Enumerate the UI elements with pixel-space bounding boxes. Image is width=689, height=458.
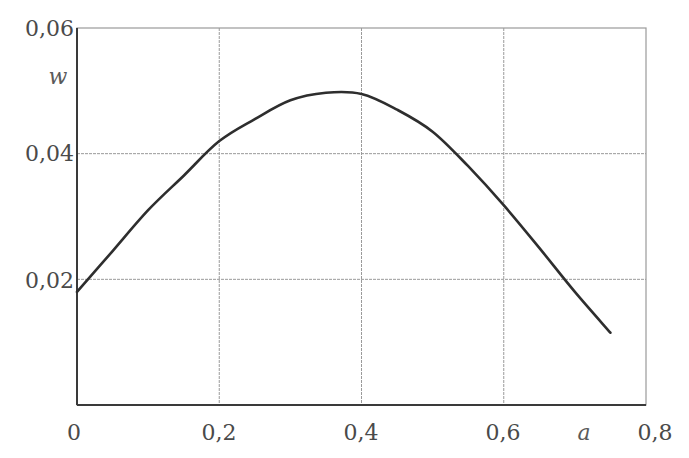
x-tick-label: 0,6 — [486, 420, 521, 445]
y-tick-label: 0,06 — [25, 16, 74, 41]
x-tick-label: 0,2 — [202, 420, 237, 445]
y-tick-label: 0,02 — [25, 268, 74, 293]
x-axis-label: a — [577, 420, 590, 445]
y-tick-label: 0,04 — [25, 141, 74, 166]
x-tick-label: 0,8 — [638, 420, 673, 445]
x-tick-label: 0,4 — [344, 420, 379, 445]
gridlines — [77, 28, 646, 405]
line-chart: 0,06 0,04 0,02 w 0 0,2 0,4 0,6 0,8 a — [0, 0, 689, 458]
data-curve — [77, 92, 610, 333]
y-tick-labels: 0,06 0,04 0,02 — [25, 16, 74, 293]
x-tick-label: 0 — [67, 420, 81, 445]
y-axis-label: w — [49, 64, 68, 89]
plot-area — [77, 28, 646, 405]
